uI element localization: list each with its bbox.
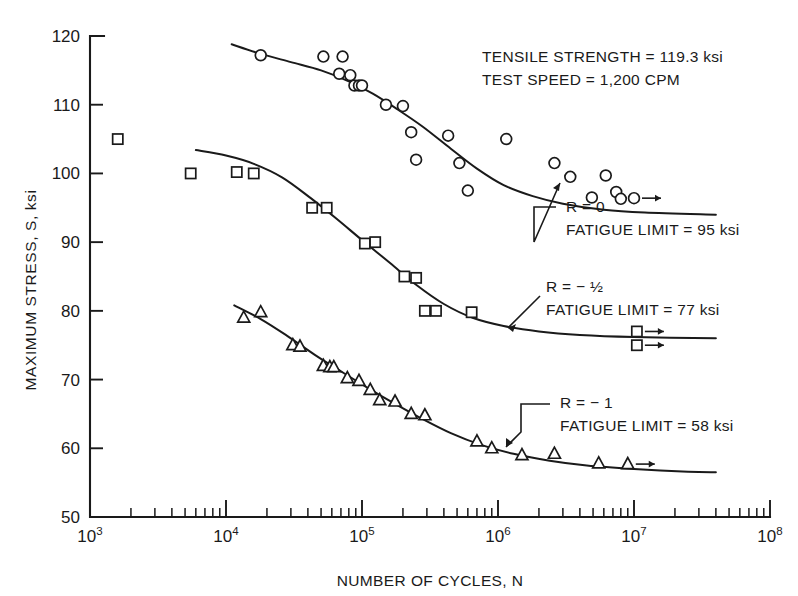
- runout-arrowhead: [649, 461, 655, 468]
- data-point-triangle: [374, 394, 386, 405]
- y-axis-ticks: [90, 105, 103, 449]
- data-point-square: [411, 273, 421, 283]
- annotation-r-minus1-line: R = − 1: [560, 394, 613, 411]
- data-point-triangle: [471, 435, 483, 446]
- data-point-circle: [255, 50, 266, 61]
- data-point-circle: [501, 134, 512, 145]
- test-conditions-note: TENSILE STRENGTH = 119.3 ksiTEST SPEED =…: [482, 48, 723, 88]
- data-point-circle: [345, 70, 356, 81]
- data-point-square: [370, 237, 380, 247]
- x-tick-label: 104: [213, 525, 239, 546]
- data-point-square: [360, 238, 370, 248]
- data-point-circle: [462, 185, 473, 196]
- y-tick-label: 90: [61, 233, 80, 252]
- data-point-triangle: [255, 306, 267, 317]
- y-tick-label: 100: [52, 164, 80, 183]
- trend-curves: [196, 44, 716, 472]
- data-point-circle: [549, 158, 560, 169]
- data-point-circle: [406, 127, 417, 138]
- axis-lines: [90, 36, 770, 517]
- data-point-square: [632, 326, 642, 336]
- data-point-triangle: [593, 457, 605, 468]
- y-tick-label: 80: [61, 302, 80, 321]
- data-point-circle: [398, 101, 409, 112]
- data-point-triangle: [419, 409, 431, 420]
- annotation-r-half-line: FATIGUE LIMIT = 77 ksi: [546, 301, 720, 318]
- y-tick-label: 120: [52, 27, 80, 46]
- x-tick-label: 108: [757, 525, 782, 546]
- chart-canvas: 5060708090100110120 103104105106107108 M…: [0, 0, 798, 596]
- runout-arrowhead: [655, 195, 661, 202]
- data-point-square: [632, 340, 642, 350]
- x-tick-label: 106: [485, 525, 510, 546]
- x-axis-ticks: [90, 500, 770, 517]
- test-condition-line: TENSILE STRENGTH = 119.3 ksi: [482, 48, 723, 65]
- annotation-r-half-line: R = − ½: [546, 278, 603, 295]
- x-axis-tick-labels: 103104105106107108: [77, 525, 782, 546]
- data-point-square: [249, 168, 259, 178]
- data-point-circle: [454, 158, 465, 169]
- annotation-r-minus1-line: FATIGUE LIMIT = 58 ksi: [560, 417, 734, 434]
- y-tick-label: 110: [53, 96, 80, 115]
- data-point-square: [420, 306, 430, 316]
- x-tick-label: 103: [77, 525, 102, 546]
- data-point-square: [322, 203, 332, 213]
- data-point-triangle: [405, 407, 417, 418]
- annotation-r0-line: FATIGUE LIMIT = 95 ksi: [566, 221, 740, 238]
- data-point-square: [431, 306, 441, 316]
- data-point-circle: [381, 99, 392, 110]
- data-point-circle: [615, 193, 626, 204]
- data-point-circle: [334, 68, 345, 79]
- data-point-square: [186, 168, 196, 178]
- y-tick-label: 50: [61, 508, 80, 527]
- x-tick-label: 107: [621, 525, 646, 546]
- x-tick-label: 105: [349, 525, 374, 546]
- runout-arrowhead: [658, 328, 664, 335]
- leader-arrowhead-r-minus1: [506, 438, 513, 447]
- test-condition-line: TEST SPEED = 1,200 CPM: [482, 71, 680, 88]
- y-tick-label: 70: [61, 371, 80, 390]
- data-point-circle: [318, 51, 329, 62]
- data-point-square: [232, 167, 242, 177]
- data-point-triangle: [548, 447, 560, 458]
- data-point-square: [113, 134, 123, 144]
- y-tick-label: 60: [61, 439, 80, 458]
- data-point-circle: [357, 80, 368, 91]
- data-point-square: [467, 307, 477, 317]
- annotation-r0-line: R = 0: [566, 198, 605, 215]
- data-point-square: [307, 203, 317, 213]
- data-point-circle: [629, 193, 640, 204]
- data-point-circle: [411, 154, 422, 165]
- y-axis-tick-labels: 5060708090100110120: [52, 27, 80, 527]
- data-point-triangle: [622, 458, 634, 469]
- leader-r0: [534, 183, 560, 242]
- leader-r-minus1: [506, 404, 550, 447]
- series-annotations: R = 0FATIGUE LIMIT = 95 ksiR = − ½FATIGU…: [546, 198, 740, 434]
- data-point-circle: [337, 51, 348, 62]
- runout-arrowhead: [658, 342, 664, 349]
- data-point-square: [399, 271, 409, 281]
- data-point-circle: [443, 130, 454, 141]
- data-point-triangle: [364, 383, 376, 394]
- series-triangle: [238, 306, 655, 469]
- x-axis-title: NUMBER OF CYCLES, N: [337, 572, 524, 589]
- y-axis-title: MAXIMUM STRESS, S, ksi: [22, 190, 39, 391]
- leader-r-half: [508, 296, 540, 328]
- curve-r-1: [234, 305, 716, 472]
- data-point-circle: [565, 171, 576, 182]
- sn-fatigue-chart: 5060708090100110120 103104105106107108 M…: [0, 0, 798, 596]
- data-point-circle: [600, 170, 611, 181]
